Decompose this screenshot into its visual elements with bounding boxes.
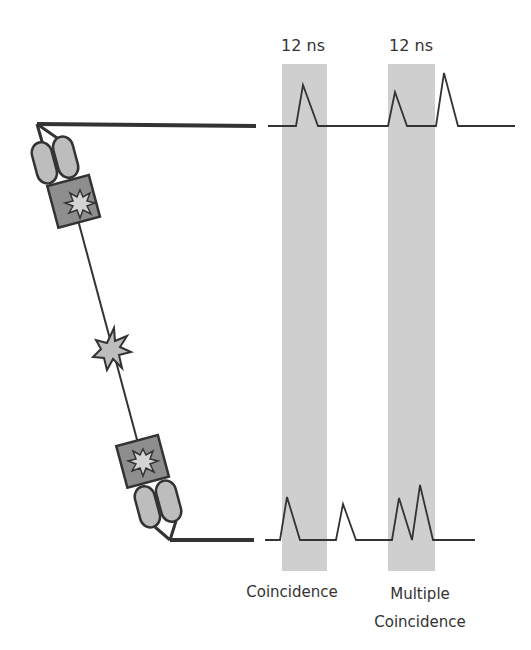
upper-cable: [37, 124, 256, 126]
upper-detector: [29, 124, 256, 228]
timing-window-2: [388, 64, 435, 571]
timing-window-1-label: 12 ns: [281, 37, 325, 55]
timing-window-1: [282, 64, 327, 571]
multiple-caption-line2: Coincidence: [374, 613, 465, 631]
diagram-canvas: [0, 0, 531, 650]
lower-detector: [116, 435, 254, 540]
annihilation-star-icon: [93, 328, 131, 370]
timing-window-2-label: 12 ns: [389, 37, 433, 55]
coincidence-caption: Coincidence: [246, 583, 337, 601]
multiple-caption-line1: Multiple: [390, 585, 450, 603]
pet-coincidence-diagram: 12 ns 12 ns Coincidence Multiple Coincid…: [0, 0, 531, 650]
